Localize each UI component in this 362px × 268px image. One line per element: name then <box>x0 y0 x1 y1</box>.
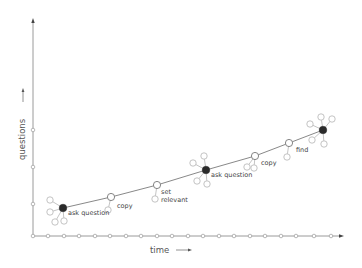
event-node-open <box>107 193 114 200</box>
x-tick <box>62 234 66 238</box>
questions-arrowhead-icon <box>22 88 25 92</box>
timeline-diagram: ask questioncopysetrelevantask questionc… <box>0 0 362 268</box>
satellite-node <box>309 137 315 143</box>
satellite-node <box>47 209 53 215</box>
x-tick <box>201 234 205 238</box>
x-tick <box>139 234 143 238</box>
satellite-node <box>201 153 207 159</box>
x-tick <box>186 234 190 238</box>
x-tick <box>170 234 174 238</box>
event-node-open <box>285 139 292 146</box>
satellite-node <box>321 141 327 147</box>
satellite-node <box>61 218 67 224</box>
x-tick <box>31 234 35 238</box>
node-label: ask question <box>211 171 252 179</box>
x-tick <box>108 234 112 238</box>
satellite-node <box>284 154 290 160</box>
x-axis-arrow-icon <box>339 234 344 237</box>
y-tick <box>31 165 35 169</box>
x-tick <box>77 234 81 238</box>
event-nodes <box>59 126 327 212</box>
satellite-node <box>190 160 196 166</box>
satellite-node <box>47 197 53 203</box>
x-tick <box>46 234 50 238</box>
y-axis-label: questions <box>17 118 27 160</box>
time-arrowhead-icon <box>188 249 192 252</box>
node-label: find <box>296 146 308 154</box>
node-label: ask question <box>68 209 109 217</box>
satellite-node <box>244 164 250 170</box>
node-label: copy <box>261 159 277 167</box>
x-tick <box>124 234 128 238</box>
x-tick <box>248 234 252 238</box>
node-label: set <box>161 188 171 196</box>
node-labels: ask questioncopysetrelevantask questionc… <box>68 146 308 217</box>
node-label: copy <box>117 202 133 210</box>
event-node-dark <box>59 204 67 212</box>
x-axis-label: time <box>150 245 169 255</box>
x-tick <box>155 234 159 238</box>
y-axis-arrow-icon <box>31 18 34 23</box>
satellite-node <box>318 114 324 120</box>
satellite-node <box>204 181 210 187</box>
x-tick <box>312 234 316 238</box>
x-tick <box>279 234 283 238</box>
x-tick <box>93 234 97 238</box>
progress-line <box>63 130 323 208</box>
y-tick <box>31 202 35 206</box>
satellite-node <box>307 121 313 127</box>
x-tick <box>217 234 221 238</box>
satellite-node <box>152 196 158 202</box>
event-node-dark <box>202 166 210 174</box>
event-node-open <box>153 181 160 188</box>
satellite-node <box>329 116 335 122</box>
x-tick <box>263 234 267 238</box>
event-node-open <box>251 152 258 159</box>
event-node-dark <box>319 126 327 134</box>
x-tick <box>329 234 333 238</box>
node-label: relevant <box>161 196 188 204</box>
x-tick <box>294 234 298 238</box>
trajectory-line <box>63 130 323 208</box>
satellite-node <box>194 178 200 184</box>
x-tick <box>232 234 236 238</box>
y-tick <box>31 128 35 132</box>
satellite-node <box>52 219 58 225</box>
